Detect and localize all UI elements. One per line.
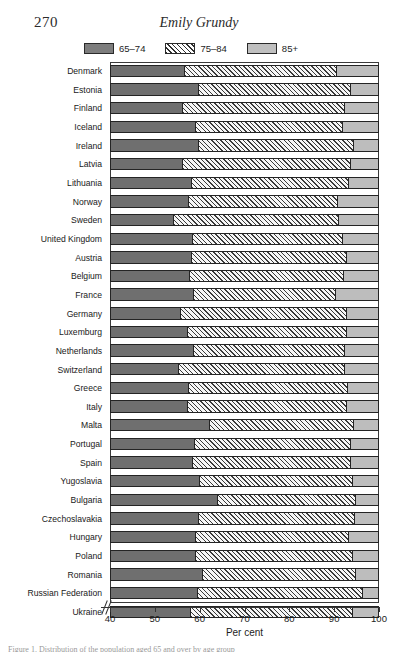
segment-85-plus <box>348 178 378 188</box>
segment-75-84 <box>191 178 348 188</box>
legend-label: 75–84 <box>200 43 226 54</box>
x-tick-label: 70 <box>239 613 250 624</box>
segment-75-84 <box>182 159 349 169</box>
segment-65-74 <box>111 420 209 430</box>
segment-85-plus <box>353 420 378 430</box>
bar-row <box>110 118 379 137</box>
category-label: Netherlands <box>0 342 106 361</box>
stacked-bar <box>110 531 379 543</box>
segment-65-74 <box>111 308 180 318</box>
stacked-bar <box>110 214 379 226</box>
segment-65-74 <box>111 476 199 486</box>
segment-85-plus <box>338 215 378 225</box>
segment-75-84 <box>198 513 354 523</box>
x-tick-label: 60 <box>194 613 205 624</box>
bar-row <box>110 230 379 249</box>
bar-row <box>110 454 379 473</box>
stacked-bar <box>110 177 379 189</box>
x-tick-label: 50 <box>150 613 161 624</box>
stacked-bar <box>110 288 379 300</box>
segment-65-74 <box>111 178 191 188</box>
segment-75-84 <box>194 439 350 449</box>
bar-row <box>110 267 379 286</box>
running-head: 270 Emily Grundy <box>0 14 398 34</box>
stacked-bar <box>110 550 379 562</box>
bar-row <box>110 286 379 305</box>
bar-row <box>110 491 379 510</box>
segment-75-84 <box>190 607 352 617</box>
stacked-bar <box>110 494 379 506</box>
category-label: Switzerland <box>0 361 106 380</box>
stacked-bar <box>110 382 379 394</box>
segment-85-plus <box>346 401 378 411</box>
segment-65-74 <box>111 513 198 523</box>
segment-75-84 <box>217 495 355 505</box>
bar-row <box>110 155 379 174</box>
segment-65-74 <box>111 234 192 244</box>
segment-85-plus <box>348 532 378 542</box>
segment-75-84 <box>184 66 337 76</box>
segment-75-84 <box>198 84 351 94</box>
bar-row <box>110 342 379 361</box>
segment-75-84 <box>197 588 362 598</box>
category-label: Poland <box>0 547 106 566</box>
category-label: Italy <box>0 398 106 417</box>
segment-85-plus <box>336 66 378 76</box>
stacked-bar <box>110 400 379 412</box>
stacked-bar <box>110 438 379 450</box>
segment-85-plus <box>344 103 378 113</box>
segment-65-74 <box>111 569 202 579</box>
stacked-bar <box>110 270 379 282</box>
category-label: Yugoslavia <box>0 472 106 491</box>
segment-65-74 <box>111 66 184 76</box>
segment-75-84 <box>192 234 342 244</box>
hatched-swatch <box>165 43 195 54</box>
category-label: Czechoslavakia <box>0 510 106 529</box>
segment-65-74 <box>111 457 192 467</box>
x-tick <box>245 607 246 612</box>
bar-row <box>110 435 379 454</box>
chapter-author: Emily Grundy <box>0 15 398 31</box>
stacked-bar <box>110 139 379 151</box>
segment-85-plus <box>350 159 378 169</box>
bar-row <box>110 472 379 491</box>
segment-65-74 <box>111 271 189 281</box>
category-label: Latvia <box>0 155 106 174</box>
category-label: Portugal <box>0 435 106 454</box>
segment-85-plus <box>343 271 378 281</box>
category-label: France <box>0 286 106 305</box>
category-label: Spain <box>0 454 106 473</box>
x-tick <box>334 607 335 612</box>
stacked-bar <box>110 568 379 580</box>
category-label: Estonia <box>0 81 106 100</box>
segment-65-74 <box>111 364 178 374</box>
segment-65-74 <box>111 495 217 505</box>
segment-65-74 <box>111 140 198 150</box>
legend-label: 85+ <box>282 43 298 54</box>
segment-65-74 <box>111 551 195 561</box>
segment-75-84 <box>173 215 338 225</box>
bar-row <box>110 584 379 603</box>
segment-75-84 <box>189 271 343 281</box>
segment-85-plus <box>362 588 378 598</box>
stacked-bar <box>110 419 379 431</box>
stacked-bar <box>110 83 379 95</box>
segment-75-84 <box>195 551 353 561</box>
bar-row <box>110 62 379 81</box>
segment-85-plus <box>352 551 378 561</box>
stacked-bar <box>110 251 379 263</box>
category-label: Lithuania <box>0 174 106 193</box>
segment-75-84 <box>193 289 335 299</box>
category-label: Romania <box>0 566 106 585</box>
segment-75-84 <box>188 383 348 393</box>
x-tick <box>289 607 290 612</box>
category-label: Russian Federation <box>0 584 106 603</box>
segment-75-84 <box>195 532 348 542</box>
legend-item-3: 85+ <box>247 43 298 54</box>
segment-75-84 <box>187 401 346 411</box>
category-label: Ukraine <box>0 603 106 622</box>
bar-row <box>110 547 379 566</box>
bar-rows <box>110 62 379 603</box>
category-label: Austria <box>0 249 106 268</box>
stacked-bar <box>110 475 379 487</box>
